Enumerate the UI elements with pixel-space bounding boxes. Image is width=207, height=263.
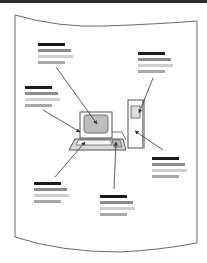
callout-text-bar [152,163,185,166]
callout-heading-bar [138,52,165,55]
callout-heading-bar [100,195,127,198]
callout-text-bar [100,201,133,204]
tower-side [142,100,144,148]
callout-text-bar [25,104,52,107]
callout-text-bar [100,207,135,210]
callout-text-bar [34,194,69,197]
callout-text-bar [38,61,65,64]
drive-bay [131,106,140,118]
callout-text-bar [138,70,165,73]
callout-heading-bar [38,43,65,46]
keyboard-keys [76,140,112,145]
mouse-pad [112,140,122,147]
callout-text-bar [25,98,60,101]
monitor-screen [84,115,108,133]
callout-heading-bar [152,157,179,160]
callout-text-bar [100,213,127,216]
callout-text-bar [138,64,173,67]
diagram-canvas [0,0,207,263]
callout-text-bar [152,169,187,172]
callout-text-bar [138,58,171,61]
callout-text-bar [25,92,58,95]
callout-text-bar [38,55,73,58]
callout-text-bar [152,175,179,178]
callout-text-bar [34,200,61,203]
callout-heading-bar [25,86,52,89]
callout-text-bar [34,188,67,191]
callout-text-bar [38,49,71,52]
callout-heading-bar [34,182,61,185]
